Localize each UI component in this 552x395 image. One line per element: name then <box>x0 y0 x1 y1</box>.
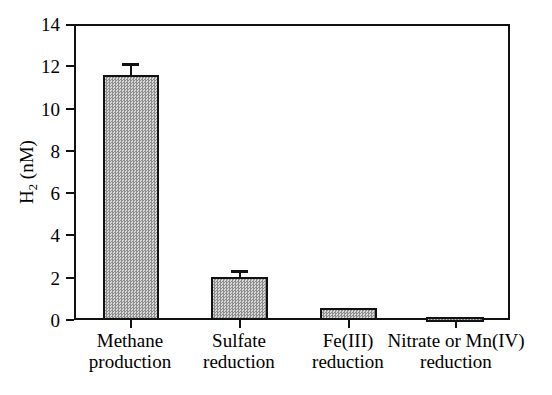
x-tick-mark-nitrate-or-mn-iv-reduction <box>455 320 457 328</box>
y-tick-label-10: 10 <box>30 99 60 118</box>
y-tick-mark-14 <box>66 24 74 26</box>
y-tick-label-14: 14 <box>30 15 60 34</box>
x-axis-label-nitrate-or-mn-iv-reduction: Nitrate or Mn(IV) reduction <box>370 330 542 372</box>
y-tick-label-2: 2 <box>30 268 60 287</box>
y-tick-label-0: 0 <box>30 311 60 330</box>
y-tick-mark-10 <box>66 108 74 110</box>
x-axis-label-line1: Nitrate or Mn(IV) <box>370 330 542 351</box>
y-tick-label-8: 8 <box>30 141 60 160</box>
x-tick-mark-methane-production <box>130 320 132 328</box>
y-tick-mark-12 <box>66 65 74 67</box>
y-tick-mark-2 <box>66 277 74 279</box>
y-tick-mark-4 <box>66 234 74 236</box>
plot-area <box>74 24 510 320</box>
y-tick-label-12: 12 <box>30 57 60 76</box>
y-tick-label-4: 4 <box>30 226 60 245</box>
x-tick-mark-fe-iii-reduction <box>348 320 350 328</box>
bar-chart-figure: H2 (nM) 0 2 4 6 8 10 12 14 Methane produ <box>0 0 552 395</box>
y-tick-mark-6 <box>66 192 74 194</box>
y-tick-label-6: 6 <box>30 184 60 203</box>
x-tick-mark-sulfate-reduction <box>239 320 241 328</box>
x-axis-label-line2: reduction <box>370 351 542 372</box>
y-tick-mark-8 <box>66 150 74 152</box>
y-tick-mark-0 <box>66 319 74 321</box>
